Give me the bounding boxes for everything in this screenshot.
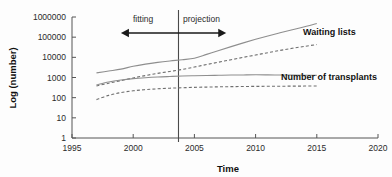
- series-curve-0: [96, 23, 316, 72]
- x-tick-label: 2015: [307, 143, 326, 153]
- y-axis-tick-labels: 1000000100000100001000100101: [33, 12, 66, 143]
- fitting-projection-arrow: [121, 29, 226, 37]
- x-tick-label: 2000: [124, 143, 143, 153]
- y-tick-label: 1000: [47, 73, 66, 83]
- chart-plot-area: 1000000100000100001000100101 19952000200…: [0, 0, 392, 177]
- annotation-projection: projection: [183, 14, 220, 24]
- x-axis-tick-labels: 199520002005201020152020: [63, 143, 388, 153]
- y-axis-title: Log (number): [7, 47, 18, 108]
- series-curves: [96, 23, 316, 99]
- series-label-waiting-lists: Waiting lists: [303, 27, 356, 37]
- y-tick-label: 10: [57, 113, 67, 123]
- x-tick-label: 1995: [63, 143, 82, 153]
- x-tick-label: 2020: [369, 143, 388, 153]
- x-tick-label: 2010: [246, 143, 265, 153]
- series-curve-3: [96, 86, 316, 100]
- y-tick-label: 100000: [38, 32, 67, 42]
- chart-container: 1000000100000100001000100101 19952000200…: [0, 0, 392, 177]
- arrow-head-left-icon: [121, 29, 129, 37]
- y-tick-label: 10000: [42, 52, 66, 62]
- y-tick-label: 1: [61, 133, 66, 143]
- series-label-transplants: Number of transplants: [281, 72, 377, 82]
- y-tick-label: 1000000: [33, 12, 66, 22]
- x-tick-label: 2005: [185, 143, 204, 153]
- arrow-head-right-icon: [218, 29, 226, 37]
- x-axis-title: Time: [217, 163, 239, 174]
- y-tick-label: 100: [52, 93, 66, 103]
- annotation-fitting: fitting: [133, 14, 154, 24]
